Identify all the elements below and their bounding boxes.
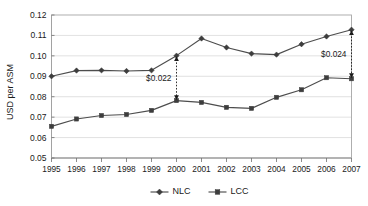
x-axis-tick-label: 1996 [67,164,86,174]
x-axis-tick-label: 1997 [92,164,111,174]
x-axis-tick-label: 2007 [342,164,361,174]
data-point-marker [274,95,278,99]
data-point-marker [224,105,228,109]
chart-background [0,0,368,206]
legend-marker [215,190,220,195]
y-axis-tick-label: 0.07 [30,112,47,122]
annotation-label: $0.022 [146,73,172,83]
x-axis-tick-label: 2004 [267,164,286,174]
legend-label: LCC [231,186,250,196]
annotation-label: $0.024 [321,49,347,59]
x-axis-tick-label: 2006 [317,164,336,174]
x-axis-tick-label: 1995 [42,164,61,174]
y-axis-tick-label: 0.12 [30,10,47,20]
y-axis-tick-label: 0.10 [30,51,47,61]
data-point-marker [324,76,328,80]
data-point-marker [74,117,78,121]
line-chart: 0.120.110.100.090.080.070.060.05 1995199… [0,0,368,206]
data-point-marker [149,108,153,112]
data-point-marker [49,124,53,128]
x-axis-tick-label: 2003 [242,164,261,174]
y-axis-tick-label: 0.11 [31,30,47,40]
data-point-marker [249,106,253,110]
x-axis-tick-label: 2002 [217,164,236,174]
data-point-marker [199,100,203,104]
y-axis-tick-label: 0.09 [30,71,47,81]
data-point-marker [124,112,128,116]
data-point-marker [99,113,103,117]
legend-label: NLC [173,186,192,196]
y-axis-tick-label: 0.08 [30,92,47,102]
x-axis-tick-label: 1999 [142,164,161,174]
x-axis-tick-label: 1998 [117,164,136,174]
y-axis-title: USD per ASM [5,64,15,120]
x-axis-tick-label: 2005 [292,164,311,174]
x-axis-tick-label: 2001 [192,164,211,174]
y-axis-tick-label: 0.05 [30,153,47,163]
data-point-marker [299,88,303,92]
y-axis-tick-label: 0.06 [30,133,47,143]
x-axis-tick-label: 2000 [167,164,186,174]
chart-container: 0.120.110.100.090.080.070.060.05 1995199… [0,0,368,206]
